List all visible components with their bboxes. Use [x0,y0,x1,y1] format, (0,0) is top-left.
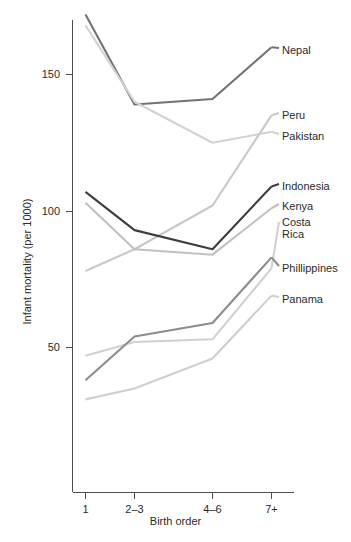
series-line-indonesia [86,186,272,249]
series-leader-kenya [272,204,280,208]
series-label-phillippines: Phillippines [282,262,338,275]
series-label-costa-rica-line2: Rica [282,228,304,241]
series-leader-pakistan [272,132,280,134]
x-tick-label-2-3: 2–3 [104,504,165,515]
x-axis-title: Birth order [0,516,351,527]
series-leader-peru [272,113,280,115]
series-leader-panama [272,296,280,297]
series-group [86,14,280,399]
series-line-phillippines [86,257,272,380]
series-line-kenya [86,203,272,255]
series-leader-nepal [272,47,280,48]
y-tick-label-150: 150 [16,69,60,80]
x-tick-label-7-plus: 7+ [241,504,302,515]
series-label-panama: Panama [282,293,323,306]
series-line-nepal [86,14,272,104]
series-label-indonesia: Indonesia [282,180,330,193]
series-label-peru: Peru [282,109,305,122]
series-line-pakistan [86,25,272,142]
series-line-peru [86,115,272,271]
series-line-costa-rica [86,268,272,355]
series-label-pakistan: Pakistan [282,130,324,143]
series-label-costa-rica-line1: Costa [282,216,311,229]
series-label-nepal: Nepal [282,44,311,57]
y-axis-title: Infant mortality (per 1000) [22,172,33,352]
chart-figure: 150 100 50 1 2–3 4–6 7+ Birth order Infa… [0,0,351,542]
x-tick-label-4-6: 4–6 [182,504,243,515]
series-leader-indonesia [272,184,280,186]
series-label-kenya: Kenya [282,200,313,213]
